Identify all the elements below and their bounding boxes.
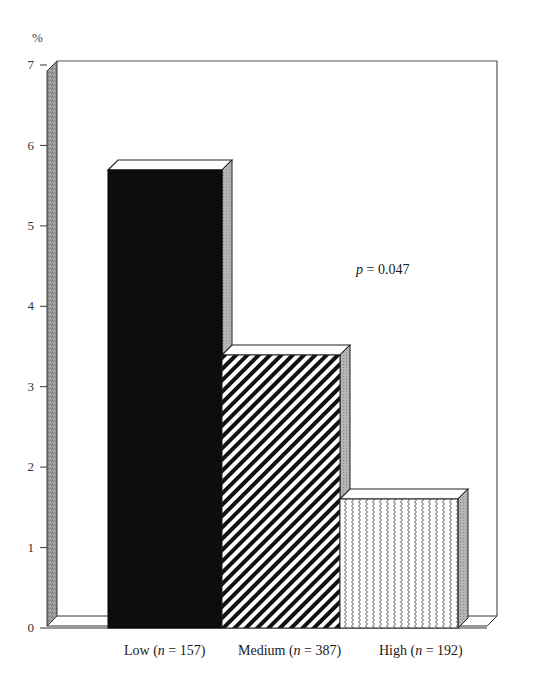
y-tick-2: 2: [28, 459, 48, 474]
bar-high-side: [458, 489, 468, 628]
y-tick-7: 7: [28, 57, 48, 72]
x-axis-labels: Low (n = 157) Medium (n = 387) High (n =…: [124, 643, 463, 659]
y-tick-1: 1: [28, 540, 48, 555]
bar-medium-top: [222, 345, 350, 355]
svg-text:0: 0: [28, 620, 35, 635]
svg-text:4: 4: [28, 298, 35, 313]
svg-text:5: 5: [28, 218, 35, 233]
p-value-annotation: p = 0.047: [355, 262, 409, 277]
bar-low-top: [108, 160, 232, 170]
bar-medium-front: [222, 355, 340, 628]
bar-low: [108, 160, 232, 628]
bar-high: [340, 489, 468, 628]
svg-text:7: 7: [28, 57, 35, 72]
svg-text:6: 6: [28, 138, 35, 153]
bar-low-front: [108, 170, 222, 628]
y-tick-0: 0: [28, 620, 48, 635]
category-label-high: High (n = 192): [379, 643, 463, 659]
category-label-low: Low (n = 157): [124, 643, 206, 659]
svg-text:3: 3: [28, 379, 35, 394]
y-tick-6: 6: [28, 138, 48, 153]
y-tick-5: 5: [28, 218, 48, 233]
bar-medium: [222, 345, 350, 628]
y-tick-4: 4: [28, 298, 48, 313]
bar-high-top: [340, 489, 468, 499]
bar-high-front: [340, 499, 458, 628]
chart-left-wall: [47, 61, 57, 626]
svg-text:1: 1: [28, 540, 35, 555]
y-axis-label: %: [32, 30, 43, 45]
y-tick-3: 3: [28, 379, 48, 394]
svg-text:2: 2: [28, 459, 35, 474]
category-label-medium: Medium (n = 387): [238, 643, 342, 659]
bar-chart: % 0 1 2 3 4: [0, 0, 552, 684]
y-axis: 0 1 2 3 4 5 6 7: [28, 57, 48, 635]
